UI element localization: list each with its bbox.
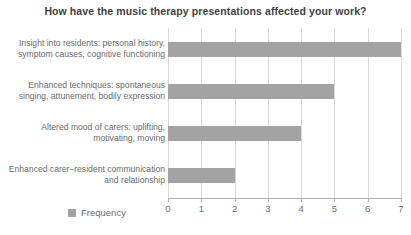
plot-area [168, 28, 401, 198]
x-tick-label: 1 [191, 203, 211, 214]
bar [168, 42, 401, 57]
category-label: Altered mood of carers: uplifting, motiv… [5, 122, 165, 145]
category-label: Insight into residents: personal history… [5, 38, 165, 61]
tickmark-6 [368, 198, 369, 202]
x-tick-label: 4 [291, 203, 311, 214]
x-tick-label: 6 [358, 203, 378, 214]
legend-swatch-frequency [68, 209, 76, 217]
bar-chart: How have the music therapy presentations… [0, 0, 411, 235]
bar [168, 168, 235, 183]
bar [168, 126, 301, 141]
tickmark-4 [301, 198, 302, 202]
tickmark-7 [401, 198, 402, 202]
legend: Frequency [68, 207, 126, 218]
chart-title: How have the music therapy presentations… [0, 5, 411, 17]
tickmark-2 [235, 198, 236, 202]
legend-label-frequency: Frequency [81, 207, 126, 218]
category-label: Enhanced techniques: spontaneous singing… [5, 80, 165, 103]
tickmark-3 [268, 198, 269, 202]
category-label: Enhanced carer–resident communication an… [5, 164, 165, 187]
tickmark-5 [334, 198, 335, 202]
x-tick-label: 0 [158, 203, 178, 214]
x-tick-label: 7 [391, 203, 411, 214]
x-tick-label: 2 [225, 203, 245, 214]
gridline-7 [401, 28, 402, 198]
x-tick-label: 3 [258, 203, 278, 214]
bar [168, 84, 334, 99]
x-tick-label: 5 [324, 203, 344, 214]
tickmark-0 [168, 198, 169, 202]
tickmark-1 [201, 198, 202, 202]
